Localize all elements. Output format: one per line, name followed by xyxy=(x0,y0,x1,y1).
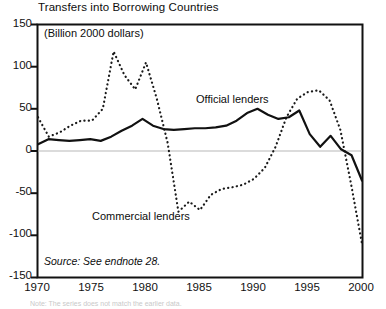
x-axis-tick-1980: 1980 xyxy=(125,281,165,293)
x-axis-tick-1990: 1990 xyxy=(233,281,273,293)
y-axis-tick-0: 0 xyxy=(0,143,32,155)
x-axis-tick-1995: 1995 xyxy=(287,281,327,293)
series-label-official: Official lenders xyxy=(196,93,269,105)
y-axis-tick-100: 100 xyxy=(0,59,32,71)
x-axis-tick-2000: 2000 xyxy=(341,281,381,293)
x-axis-tick-1975: 1975 xyxy=(71,281,111,293)
chart-subtitle: (Billion 2000 dollars) xyxy=(44,27,144,39)
y-axis-tick-150: 150 xyxy=(0,17,32,29)
series-label-commercial: Commercial lenders xyxy=(92,210,190,222)
y-axis-tick-neg50: -50 xyxy=(0,185,32,197)
x-axis-tick-1985: 1985 xyxy=(179,281,219,293)
chart-figure: Transfers into Borrowing Countries (Bill… xyxy=(0,0,386,309)
y-axis-tick-50: 50 xyxy=(0,101,32,113)
x-axis-tick-1970: 1970 xyxy=(17,281,57,293)
chart-title: Transfers into Borrowing Countries xyxy=(38,1,219,13)
series-official-lenders xyxy=(38,109,362,181)
y-axis-tick-neg150: -150 xyxy=(0,269,32,281)
y-axis-tick-neg100: -100 xyxy=(0,227,32,239)
chart-source-note: Source: See endnote 28. xyxy=(44,255,160,267)
series-commercial-lenders xyxy=(38,51,362,243)
figure-bottom-note: Note: The series does not match the earl… xyxy=(30,300,370,307)
